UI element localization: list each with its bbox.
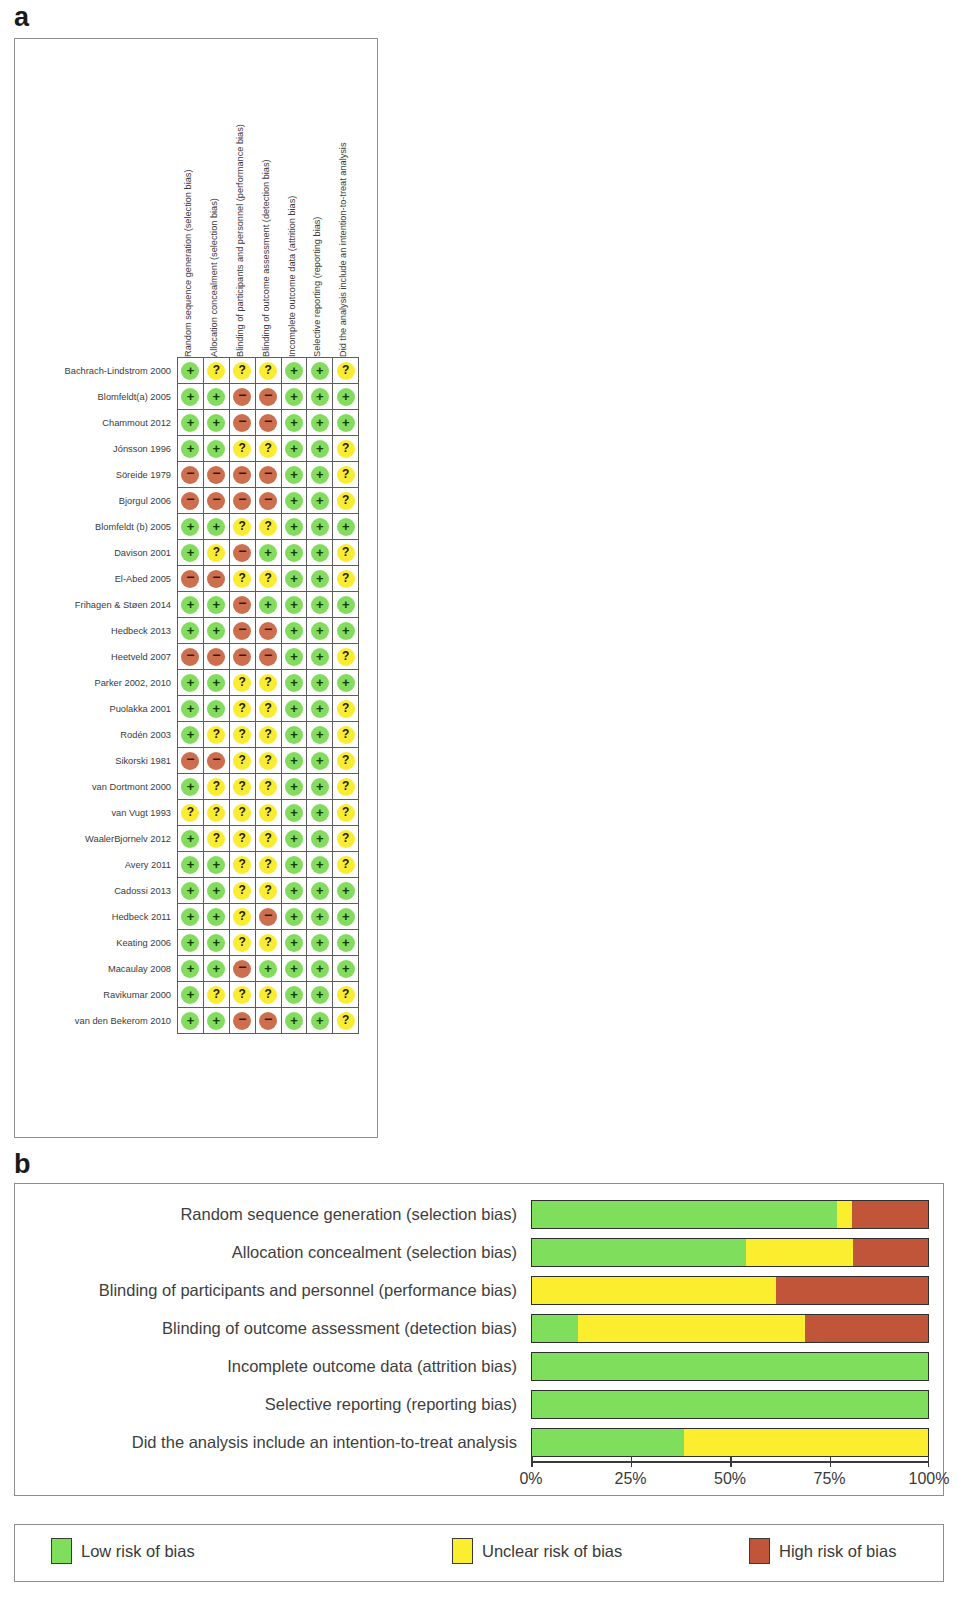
judgement-cell[interactable]: + — [307, 748, 333, 774]
judgement-cell[interactable]: − — [230, 592, 256, 618]
judgement-cell[interactable]: ? — [178, 800, 204, 826]
judgement-cell[interactable]: + — [204, 930, 230, 956]
judgement-cell[interactable]: ? — [230, 904, 256, 930]
judgement-cell[interactable]: ? — [333, 696, 359, 722]
judgement-cell[interactable]: + — [178, 826, 204, 852]
judgement-cell[interactable]: + — [282, 644, 308, 670]
judgement-cell[interactable]: ? — [256, 696, 282, 722]
judgement-cell[interactable]: + — [282, 1008, 308, 1034]
judgement-cell[interactable]: + — [282, 722, 308, 748]
judgement-cell[interactable]: + — [178, 878, 204, 904]
judgement-cell[interactable]: + — [282, 436, 308, 462]
judgement-cell[interactable]: + — [307, 488, 333, 514]
judgement-cell[interactable]: + — [178, 774, 204, 800]
judgement-cell[interactable]: − — [230, 540, 256, 566]
judgement-cell[interactable]: + — [282, 618, 308, 644]
judgement-cell[interactable]: + — [282, 670, 308, 696]
judgement-cell[interactable]: + — [333, 592, 359, 618]
judgement-cell[interactable]: ? — [230, 878, 256, 904]
judgement-cell[interactable]: ? — [333, 800, 359, 826]
judgement-cell[interactable]: ? — [204, 358, 230, 384]
judgement-cell[interactable]: + — [282, 826, 308, 852]
judgement-cell[interactable]: + — [204, 696, 230, 722]
judgement-cell[interactable]: + — [282, 358, 308, 384]
judgement-cell[interactable]: ? — [256, 930, 282, 956]
judgement-cell[interactable]: + — [178, 930, 204, 956]
judgement-cell[interactable]: + — [178, 514, 204, 540]
judgement-cell[interactable]: + — [282, 774, 308, 800]
judgement-cell[interactable]: − — [178, 748, 204, 774]
judgement-cell[interactable]: ? — [230, 800, 256, 826]
judgement-cell[interactable]: + — [307, 358, 333, 384]
judgement-cell[interactable]: ? — [230, 852, 256, 878]
judgement-cell[interactable]: + — [178, 436, 204, 462]
judgement-cell[interactable]: + — [256, 540, 282, 566]
judgement-cell[interactable]: + — [282, 930, 308, 956]
judgement-cell[interactable]: + — [178, 852, 204, 878]
judgement-cell[interactable]: − — [230, 1008, 256, 1034]
judgement-cell[interactable]: − — [178, 488, 204, 514]
judgement-cell[interactable]: ? — [204, 774, 230, 800]
judgement-cell[interactable]: + — [282, 748, 308, 774]
judgement-cell[interactable]: ? — [333, 1008, 359, 1034]
judgement-cell[interactable]: − — [204, 644, 230, 670]
judgement-cell[interactable]: + — [204, 410, 230, 436]
judgement-cell[interactable]: ? — [256, 774, 282, 800]
judgement-cell[interactable]: − — [256, 410, 282, 436]
judgement-cell[interactable]: + — [307, 722, 333, 748]
judgement-cell[interactable]: ? — [230, 436, 256, 462]
judgement-cell[interactable]: + — [178, 592, 204, 618]
judgement-cell[interactable]: + — [282, 462, 308, 488]
judgement-cell[interactable]: + — [307, 566, 333, 592]
judgement-cell[interactable]: + — [178, 384, 204, 410]
judgement-cell[interactable]: ? — [333, 644, 359, 670]
judgement-cell[interactable]: + — [204, 904, 230, 930]
judgement-cell[interactable]: + — [256, 592, 282, 618]
judgement-cell[interactable]: + — [282, 696, 308, 722]
judgement-cell[interactable]: ? — [256, 800, 282, 826]
judgement-cell[interactable]: − — [256, 1008, 282, 1034]
judgement-cell[interactable]: + — [204, 878, 230, 904]
judgement-cell[interactable]: + — [307, 930, 333, 956]
judgement-cell[interactable]: + — [256, 956, 282, 982]
judgement-cell[interactable]: + — [307, 670, 333, 696]
judgement-cell[interactable]: ? — [256, 852, 282, 878]
judgement-cell[interactable]: ? — [230, 748, 256, 774]
judgement-cell[interactable]: − — [256, 904, 282, 930]
judgement-cell[interactable]: + — [282, 540, 308, 566]
judgement-cell[interactable]: − — [230, 644, 256, 670]
judgement-cell[interactable]: + — [178, 1008, 204, 1034]
judgement-cell[interactable]: ? — [333, 748, 359, 774]
judgement-cell[interactable]: + — [204, 618, 230, 644]
judgement-cell[interactable]: + — [282, 982, 308, 1008]
judgement-cell[interactable]: + — [282, 904, 308, 930]
judgement-cell[interactable]: + — [307, 904, 333, 930]
judgement-cell[interactable]: + — [307, 540, 333, 566]
judgement-cell[interactable]: + — [282, 488, 308, 514]
judgement-cell[interactable]: ? — [204, 722, 230, 748]
judgement-cell[interactable]: + — [282, 384, 308, 410]
judgement-cell[interactable]: + — [333, 956, 359, 982]
judgement-cell[interactable]: − — [230, 384, 256, 410]
judgement-cell[interactable]: + — [178, 722, 204, 748]
judgement-cell[interactable]: − — [256, 618, 282, 644]
judgement-cell[interactable]: + — [307, 644, 333, 670]
judgement-cell[interactable]: − — [256, 384, 282, 410]
judgement-cell[interactable]: − — [178, 462, 204, 488]
judgement-cell[interactable]: + — [333, 878, 359, 904]
judgement-cell[interactable]: ? — [256, 358, 282, 384]
judgement-cell[interactable]: + — [204, 436, 230, 462]
judgement-cell[interactable]: + — [307, 410, 333, 436]
judgement-cell[interactable]: + — [178, 540, 204, 566]
judgement-cell[interactable]: ? — [333, 982, 359, 1008]
judgement-cell[interactable]: + — [204, 592, 230, 618]
judgement-cell[interactable]: ? — [230, 566, 256, 592]
judgement-cell[interactable]: ? — [333, 436, 359, 462]
judgement-cell[interactable]: + — [178, 670, 204, 696]
judgement-cell[interactable]: + — [333, 514, 359, 540]
judgement-cell[interactable]: + — [307, 436, 333, 462]
judgement-cell[interactable]: + — [282, 410, 308, 436]
judgement-cell[interactable]: + — [307, 696, 333, 722]
judgement-cell[interactable]: + — [282, 956, 308, 982]
judgement-cell[interactable]: + — [307, 774, 333, 800]
